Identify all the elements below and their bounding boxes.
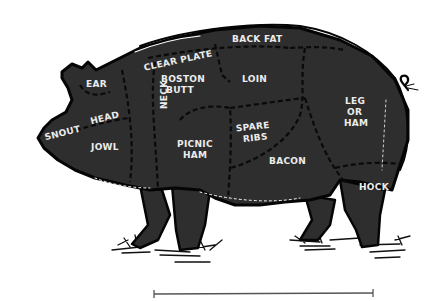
label-ear: EAR: [86, 79, 107, 89]
label-boston: BOSTON: [161, 74, 205, 84]
label-jowl: JOWL: [90, 142, 119, 152]
label-back-fat: BACK FAT: [232, 34, 283, 44]
label-hock: HOCK: [359, 182, 390, 192]
label-leg: LEG: [345, 96, 365, 106]
label-loin: LOIN: [242, 74, 267, 84]
scale-bar: [154, 289, 373, 298]
front-right-leg: [172, 185, 210, 250]
label-bacon: BACON: [269, 156, 306, 166]
label-butt: BUTT: [166, 85, 194, 95]
label-ham: HAM: [344, 118, 368, 128]
front-left-leg: [132, 185, 170, 248]
label-picnic: PICNIC: [177, 139, 213, 149]
label-or: OR: [347, 107, 362, 117]
label-picnic-ham: HAM: [183, 150, 207, 160]
pig-cuts-diagram: EAR HEAD SNOUT JOWL NECK CLEAR PLATE BAC…: [0, 0, 440, 301]
